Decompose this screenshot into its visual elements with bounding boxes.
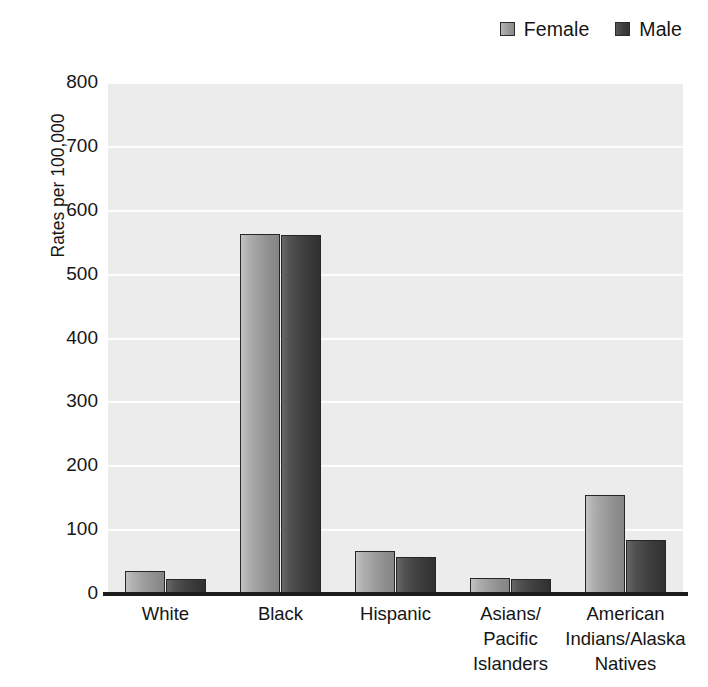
bar-group-container	[108, 82, 683, 593]
bar-female-1	[240, 234, 280, 593]
y-axis-tick-labels: 0100200300400500600700800	[44, 0, 98, 687]
bar-male-2	[396, 557, 436, 593]
legend-entry-male: Male	[615, 18, 682, 41]
x-axis-category-labels: WhiteBlackHispanicAsians/PacificIslander…	[108, 601, 683, 685]
x-axis-label-line: Natives	[565, 651, 685, 676]
x-axis-label-line: Pacific	[473, 626, 548, 651]
y-axis-tick-700: 700	[44, 135, 98, 157]
legend-swatch-female-icon	[500, 22, 515, 36]
bar-male-3	[511, 579, 551, 593]
bar-female-0	[125, 571, 165, 593]
x-axis-label-line: Indians/Alaska	[565, 626, 685, 651]
x-axis-label-2: Hispanic	[360, 601, 431, 626]
legend-label-male: Male	[639, 18, 682, 41]
y-axis-tick-200: 200	[44, 454, 98, 476]
x-axis-label-1: Black	[258, 601, 303, 626]
y-axis-tick-500: 500	[44, 263, 98, 285]
x-axis-label-4: AmericanIndians/AlaskaNatives	[565, 601, 685, 676]
bar-male-0	[166, 579, 206, 593]
y-axis-tick-800: 800	[44, 71, 98, 93]
y-axis-tick-300: 300	[44, 390, 98, 412]
bar-male-4	[626, 540, 666, 593]
x-axis-label-line: Islanders	[473, 651, 548, 676]
x-axis-label-line: American	[565, 601, 685, 626]
bar-male-1	[281, 235, 321, 593]
x-axis-label-3: Asians/PacificIslanders	[473, 601, 548, 676]
y-axis-tick-100: 100	[44, 518, 98, 540]
bar-female-3	[470, 578, 510, 593]
chart-legend: Female Male	[0, 12, 708, 46]
bar-female-4	[585, 495, 625, 593]
plot-area	[108, 82, 683, 593]
x-axis-label-line: Hispanic	[360, 601, 431, 626]
bar-female-2	[355, 551, 395, 593]
x-axis-label-line: Asians/	[473, 601, 548, 626]
legend-label-female: Female	[524, 18, 590, 41]
y-axis-tick-600: 600	[44, 199, 98, 221]
x-axis-line	[103, 592, 688, 596]
y-axis-tick-400: 400	[44, 327, 98, 349]
x-axis-label-line: White	[142, 601, 189, 626]
legend-entry-female: Female	[500, 18, 590, 41]
x-axis-label-line: Black	[258, 601, 303, 626]
x-axis-label-0: White	[142, 601, 189, 626]
y-axis-tick-0: 0	[44, 582, 98, 604]
legend-swatch-male-icon	[615, 22, 630, 36]
